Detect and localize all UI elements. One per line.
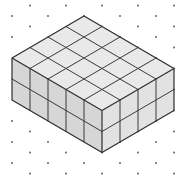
grid-dot	[83, 162, 85, 164]
grid-dot	[155, 36, 157, 38]
grid-dot	[101, 5, 103, 7]
isometric-cuboid-figure	[0, 0, 187, 180]
grid-dot	[65, 173, 67, 175]
grid-dot	[137, 26, 139, 28]
grid-dot	[173, 47, 175, 49]
grid-dot	[137, 5, 139, 7]
grid-dot	[47, 162, 49, 164]
grid-dot	[29, 5, 31, 7]
grid-dot	[65, 152, 67, 154]
grid-dot	[137, 152, 139, 154]
grid-dot	[11, 162, 13, 164]
grid-dot	[155, 162, 157, 164]
grid-dot	[137, 173, 139, 175]
grid-dot	[155, 141, 157, 143]
grid-dot	[11, 120, 13, 122]
grid-dot	[173, 26, 175, 28]
grid-dot	[173, 152, 175, 154]
grid-dot	[101, 173, 103, 175]
grid-dot	[47, 141, 49, 143]
grid-dot	[29, 131, 31, 133]
grid-dot	[173, 173, 175, 175]
grid-dot	[173, 5, 175, 7]
grid-dot	[155, 15, 157, 17]
grid-dot	[119, 15, 121, 17]
grid-dot	[173, 131, 175, 133]
grid-dot	[29, 152, 31, 154]
grid-dot	[119, 162, 121, 164]
grid-dot	[11, 141, 13, 143]
grid-dot	[29, 173, 31, 175]
grid-dot	[11, 36, 13, 38]
grid-dot	[47, 15, 49, 17]
grid-dot	[29, 26, 31, 28]
grid-dot	[65, 5, 67, 7]
grid-dot	[11, 15, 13, 17]
